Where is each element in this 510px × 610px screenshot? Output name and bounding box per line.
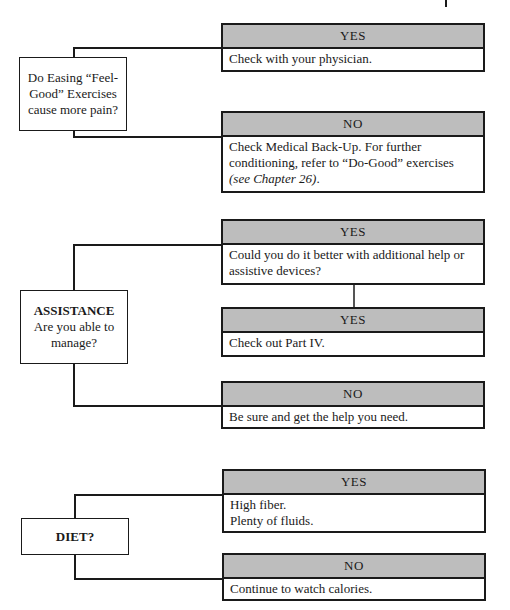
- answer-text: Check out Part IV.: [223, 333, 483, 355]
- answer-label: YES: [223, 25, 483, 49]
- connector: [73, 405, 222, 407]
- connector: [73, 47, 221, 49]
- answer-line: High fiber.: [230, 497, 478, 513]
- question-title: DIET?: [56, 529, 94, 545]
- answer-text: Be sure and get the help you need.: [223, 407, 483, 429]
- connector: [73, 244, 222, 246]
- connector: [74, 554, 76, 579]
- connector: [74, 578, 223, 580]
- answer-box-yes: YES High fiber. Plenty of fluids.: [222, 469, 486, 533]
- answer-text: Could you do it better with additional h…: [223, 245, 483, 283]
- chapter-reference: (see Chapter 26): [229, 171, 316, 186]
- answer-box-yes-followup: YES Check out Part IV.: [221, 307, 485, 357]
- answer-text: High fiber. Plenty of fluids.: [224, 495, 484, 533]
- connector: [73, 363, 75, 406]
- decision-box: ASSISTANCE Are you able to manage?: [20, 290, 128, 364]
- connector: [74, 494, 76, 519]
- decision-box: Do Easing “Feel-Good” Exercises cause mo…: [19, 57, 127, 131]
- answer-box-no: NO Continue to watch calories.: [222, 553, 486, 601]
- answer-box-yes: YES Check with your physician.: [221, 23, 485, 72]
- answer-label: YES: [223, 221, 483, 245]
- answer-text: Continue to watch calories.: [224, 579, 484, 601]
- answer-text-main: Check Medical Back-Up. For further condi…: [229, 139, 454, 170]
- connector: [74, 494, 223, 496]
- answer-label: NO: [223, 113, 483, 137]
- answer-label: YES: [224, 471, 484, 495]
- connector: [353, 284, 355, 308]
- page-edge-mark: [445, 0, 447, 7]
- connector: [73, 244, 75, 290]
- answer-label: NO: [224, 555, 484, 579]
- answer-box-yes: YES Could you do it better with addition…: [221, 219, 485, 285]
- question-text: Do Easing “Feel-Good” Exercises cause mo…: [20, 70, 126, 118]
- answer-line: Plenty of fluids.: [230, 513, 478, 529]
- connector: [73, 136, 221, 138]
- answer-label: YES: [223, 309, 483, 333]
- answer-text: Check with your physician.: [223, 49, 483, 71]
- answer-box-no: NO Be sure and get the help you need.: [221, 381, 485, 429]
- answer-text: Check Medical Back-Up. For further condi…: [223, 137, 483, 191]
- question-text: Are you able to manage?: [34, 319, 115, 350]
- answer-label: NO: [223, 383, 483, 407]
- connector: [73, 47, 75, 57]
- punctuation: .: [316, 171, 319, 186]
- answer-box-no: NO Check Medical Back-Up. For further co…: [221, 111, 485, 193]
- decision-box: DIET?: [21, 518, 129, 555]
- question-title: ASSISTANCE: [21, 303, 127, 319]
